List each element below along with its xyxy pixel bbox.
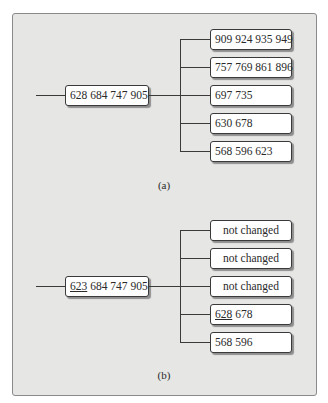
child-node-b-0-label: not changed — [223, 224, 279, 236]
root-node-b-rest-keys: 684 747 905 — [87, 280, 147, 292]
root-b-outgoing-line — [149, 286, 180, 287]
child-node-b-0: not changed — [210, 220, 292, 241]
child-node-a-2-keys: 697 735 — [215, 89, 252, 101]
child-node-b-1: not changed — [210, 248, 292, 269]
child-node-a-1-keys: 757 769 861 896 — [215, 61, 293, 73]
branch-a-3 — [180, 123, 210, 124]
branch-b-2 — [180, 286, 210, 287]
child-node-a-0-keys: 909 924 935 949 — [215, 33, 293, 45]
branch-a-2 — [180, 95, 210, 96]
root-node-b-underlined-key: 623 — [70, 280, 87, 292]
child-node-a-4-keys: 568 596 623 — [215, 145, 273, 157]
root-node-a-keys: 628 684 747 905 — [70, 89, 148, 101]
root-a-outgoing-line — [149, 95, 180, 96]
child-node-a-1: 757 769 861 896 — [210, 57, 292, 78]
root-a-incoming-line — [36, 95, 65, 96]
child-node-a-3: 630 678 — [210, 113, 292, 134]
branch-b-3 — [180, 314, 210, 315]
child-node-b-3-underlined-key: 628 — [215, 308, 232, 320]
child-node-a-0: 909 924 935 949 — [210, 29, 292, 50]
root-b-incoming-line — [36, 286, 65, 287]
child-node-b-2-label: not changed — [223, 280, 279, 292]
root-node-b: 623 684 747 905 — [65, 276, 149, 297]
child-node-a-3-keys: 630 678 — [215, 117, 252, 129]
child-node-a-2: 697 735 — [210, 85, 292, 106]
branch-a-0 — [180, 39, 210, 40]
child-node-b-2: not changed — [210, 276, 292, 297]
branch-a-1 — [180, 67, 210, 68]
caption-b: (b) — [0, 369, 328, 381]
branch-b-4 — [180, 342, 210, 343]
child-node-b-4-keys: 568 596 — [215, 336, 252, 348]
child-node-b-3: 628 678 — [210, 304, 292, 325]
root-node-a: 628 684 747 905 — [65, 85, 149, 106]
child-node-b-4: 568 596 — [210, 332, 292, 353]
child-node-b-1-label: not changed — [223, 252, 279, 264]
caption-a: (a) — [0, 179, 328, 191]
branch-b-1 — [180, 258, 210, 259]
child-node-b-3-rest-keys: 678 — [232, 308, 252, 320]
branch-b-0 — [180, 230, 210, 231]
child-node-a-4: 568 596 623 — [210, 141, 292, 162]
branch-a-4 — [180, 151, 210, 152]
